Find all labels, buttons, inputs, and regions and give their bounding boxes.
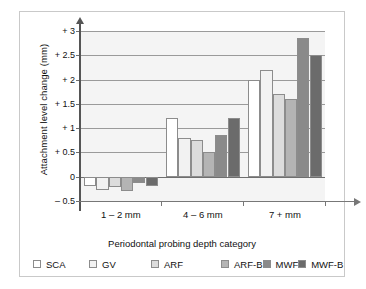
y-axis-tick-label: + 3 [62,26,75,36]
legend-label: ARF [164,259,183,270]
gridline [80,80,325,81]
bar-mwf-0 [133,177,145,183]
bar-mwf-b-2 [310,55,322,176]
chart-legend: SCAGVARFARF-BMWFMWF-B [33,257,233,271]
legend-item-arf[interactable]: ARF [151,257,221,271]
x-axis-divider [325,201,326,206]
gridline [80,31,325,32]
legend-label: SCA [46,259,66,270]
x-axis-category-label: 7 + mm [269,209,301,220]
y-axis-title: Attachment level change (mm) [38,35,49,185]
y-axis-tick-label: + 2.5 [55,50,75,60]
bar-gv-2 [260,70,272,177]
legend-item-mwf-b[interactable]: MWF-B [298,257,343,271]
y-axis-line [79,21,81,211]
bar-sca-1 [166,118,178,176]
legend-label: ARF-B [234,259,263,270]
legend-label: GV [102,259,116,270]
bar-arf-0 [109,177,121,188]
y-axis-tick-label: – 0.5 [55,196,75,206]
bar-sca-2 [248,80,260,177]
bar-arf-b-0 [121,177,133,192]
x-axis-title: Periodontal probing depth category [20,238,344,249]
x-axis-divider [243,201,244,206]
legend-item-arf-b[interactable]: ARF-B [221,257,263,271]
legend-swatch-icon [298,260,306,268]
legend-swatch-icon [33,260,41,268]
legend-swatch-icon [151,260,159,268]
x-axis-line [79,201,355,202]
y-axis-tick-label: + 0.5 [55,147,75,157]
legend-label: MWF [276,259,299,270]
bar-gv-0 [96,177,108,190]
y-axis-arrow-icon [76,17,84,24]
y-axis-tick-label: + 2 [62,75,75,85]
bar-mwf-b-0 [146,177,158,187]
bar-gv-1 [178,138,190,177]
y-axis-tick-label: + 1.5 [55,99,75,109]
bar-arf-b-1 [203,152,215,176]
legend-item-sca[interactable]: SCA [33,257,89,271]
x-axis-category-label: 4 – 6 mm [183,209,223,220]
legend-item-gv[interactable]: GV [89,257,151,271]
plot-area: + 3+ 2.5+ 2+ 1.5+ 1+ 0.50– 0.5 1 – 2 mm4… [80,31,325,201]
legend-item-mwf[interactable]: MWF [263,257,299,271]
bar-mwf-2 [297,38,309,176]
bar-mwf-b-1 [228,118,240,176]
bar-arf-1 [191,140,203,176]
x-axis-category-label: 1 – 2 mm [101,209,141,220]
x-axis-divider [161,201,162,206]
bar-mwf-1 [215,135,227,176]
x-axis-arrow-icon [354,198,361,206]
bar-arf-b-2 [285,99,297,177]
bar-sca-0 [84,177,96,187]
y-axis-tick-label: 0 [70,172,75,182]
legend-label: MWF-B [311,259,343,270]
y-axis-tick-label: + 1 [62,123,75,133]
legend-swatch-icon [89,260,97,268]
bar-arf-2 [273,94,285,177]
legend-swatch-icon [263,260,271,268]
gridline [80,55,325,56]
chart-figure: Attachment level change (mm) + 3+ 2.5+ 2… [19,11,345,277]
legend-swatch-icon [221,260,229,268]
